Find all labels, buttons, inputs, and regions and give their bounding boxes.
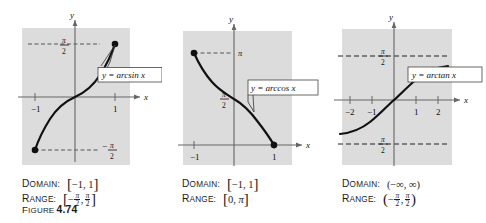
callout-text-arctan: y = arctan x (411, 70, 456, 80)
caption-arcsin: DOMAIN: [−1, 1] RANGE: [−π2, π2] FIGURE4… (22, 172, 162, 215)
x-tick-label-1: 1 (414, 107, 419, 117)
y-axis-label: y (69, 10, 74, 20)
x-tick-label-neg2: −2 (345, 107, 355, 117)
x-axis-label: x (305, 140, 310, 150)
y-axis-arrowhead (73, 20, 78, 26)
x-axis-arrowhead (296, 143, 302, 148)
x-axis-label: x (463, 95, 468, 105)
domain-value: [−1, 1] (227, 179, 259, 190)
y-axis-label: y (228, 14, 233, 24)
x-axis-label: x (143, 92, 148, 102)
svg-text:π: π (110, 141, 114, 150)
svg-text:2: 2 (381, 146, 385, 155)
svg-text:π: π (62, 36, 66, 45)
range-label: RANGE: (22, 195, 56, 204)
range-value: [−π2, π2] (63, 194, 96, 205)
x-tick-label-1: 1 (113, 104, 118, 114)
domain-row: DOMAIN: (−∞, ∞) (342, 172, 482, 187)
callout-text-arcsin: y = arcsin x (101, 70, 145, 80)
range-value: [0, π] (223, 194, 249, 205)
y-tick-label-pi: π (238, 48, 243, 58)
svg-text:−: − (102, 141, 107, 151)
svg-text:π: π (222, 90, 226, 99)
svg-text:π: π (381, 47, 385, 56)
endpoint-lower (271, 142, 278, 149)
panel-arctan: x y −2 −1 1 2 π 2 π 2 y = arctan x (324, 0, 486, 223)
y-axis-arrowhead (392, 22, 397, 28)
range-label: RANGE: (342, 195, 376, 204)
panel-arcsin: x y −1 1 π 2 − π 2 y = arcsin x (0, 0, 162, 223)
x-tick-label-neg1: −1 (367, 107, 377, 117)
domain-value: [−1, 1] (67, 179, 99, 190)
x-tick-label-1: 1 (272, 152, 277, 162)
plot-arctan: x y −2 −1 1 2 π 2 π 2 y = arctan x (324, 0, 486, 172)
x-tick-label-neg1: −1 (31, 104, 41, 114)
range-value: (−π2, π2) (383, 194, 416, 205)
plot-arccos: x y −1 1 π π 2 y = arccos x (162, 0, 324, 172)
caption-arccos: DOMAIN: [−1, 1] RANGE: [0, π] (182, 172, 322, 202)
svg-text:2: 2 (62, 47, 66, 56)
x-tick-label-2: 2 (436, 107, 441, 117)
x-axis-arrowhead (454, 98, 460, 103)
callout-text-arccos: y = arccos x (250, 83, 295, 93)
domain-value: (−∞, ∞) (387, 179, 420, 190)
x-tick-label-neg1: −1 (190, 152, 200, 162)
caption-arctan: DOMAIN: (−∞, ∞) RANGE: (−π2, π2) (342, 172, 482, 202)
figure-4-74: x y −1 1 π 2 − π 2 y = arcsin x (0, 0, 486, 223)
domain-row: DOMAIN: [−1, 1] (182, 172, 322, 187)
endpoint-upper (191, 50, 198, 57)
endpoint-lower (32, 147, 39, 154)
panel-arccos: x y −1 1 π π 2 y = arccos x DOMAIN: [−1,… (162, 0, 324, 223)
y-axis-label: y (388, 12, 393, 22)
x-axis-arrowhead (134, 95, 140, 100)
svg-text:2: 2 (110, 152, 114, 161)
y-axis-arrowhead (232, 24, 237, 30)
range-label: RANGE: (182, 195, 216, 204)
domain-row: DOMAIN: [−1, 1] (22, 172, 162, 187)
svg-text:2: 2 (222, 101, 226, 110)
svg-text:π: π (381, 135, 385, 144)
svg-text:2: 2 (381, 58, 385, 67)
plot-arcsin: x y −1 1 π 2 − π 2 y = arcsin x (0, 0, 162, 172)
